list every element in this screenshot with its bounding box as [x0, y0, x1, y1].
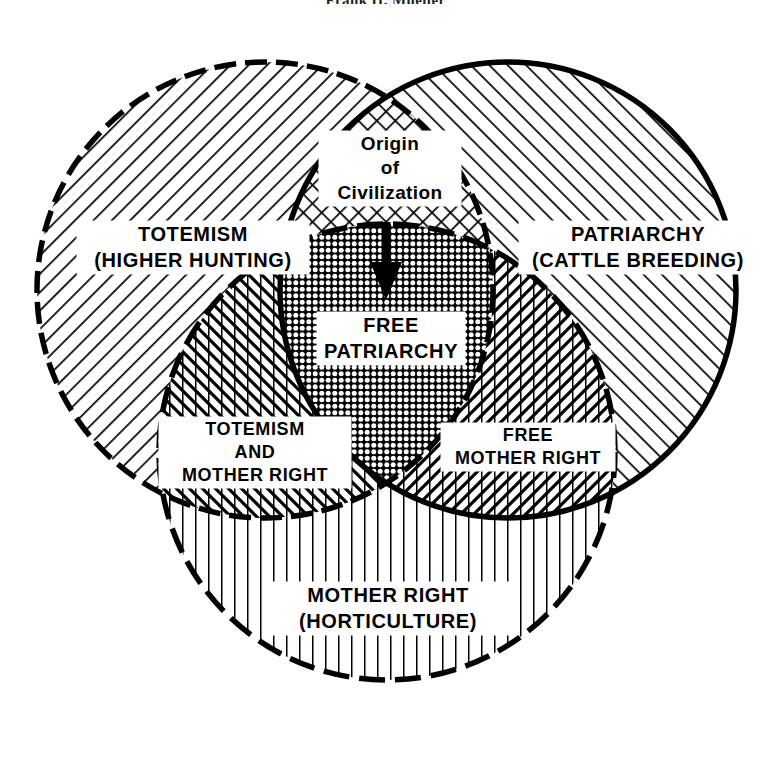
venn-diagram — [0, 0, 771, 761]
venn-svg — [0, 0, 771, 761]
page-canvas: Frank H. Mueller — [0, 0, 771, 761]
